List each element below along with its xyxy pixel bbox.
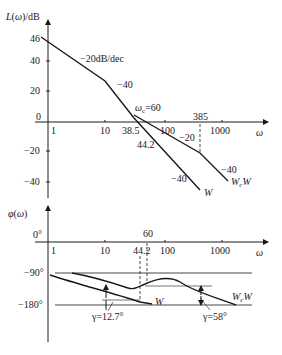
phase-y-label: φ(ω)	[8, 208, 27, 220]
y-tick-40: 40	[30, 55, 40, 66]
phase-x-tick-60: 60	[143, 228, 153, 239]
y-tick-46: 46	[30, 33, 40, 44]
y-tick-20: 20	[30, 85, 40, 96]
slope-label-uncorrected-end: −40	[171, 173, 187, 184]
x-tick-38-5: 38.5	[122, 125, 140, 136]
phase-x-tick-44-2: 44.2	[133, 245, 151, 256]
phase-x-label: ω	[256, 247, 263, 258]
magnitude-y-label: L(ω)/dB	[5, 11, 40, 23]
phase-x-tick-100: 100	[160, 245, 175, 256]
phase-plot: φ(ω) ω 0° −90° −180° 1 10 44.2 60 100 10…	[8, 206, 268, 342]
bode-plot-figure: L(ω)/dB ω 46 40 20 0 −20 −40 1 10 38.5 1…	[0, 0, 282, 355]
curve-label-w: W	[204, 187, 214, 198]
margin-label-w: γ=12.7°	[91, 311, 124, 322]
phase-tick-neg90: −90°	[24, 267, 44, 278]
phase-tick-neg180: −180°	[18, 299, 43, 310]
slope-label-corrected-end: −40	[221, 164, 237, 175]
curve-label-wcw: WcW	[231, 176, 252, 189]
phase-x-tick-1: 1	[51, 245, 56, 256]
x-tick-10: 10	[100, 125, 110, 136]
freq-44-2-annotation: 44.2	[137, 139, 155, 150]
y-tick-neg20: −20	[24, 145, 40, 156]
freq-385-annotation: 385	[193, 111, 208, 122]
x-tick-1: 1	[51, 125, 56, 136]
slope-label-corrected-mid: −20	[179, 132, 195, 143]
phase-x-tick-1000: 1000	[210, 245, 230, 256]
magnitude-x-label: ω	[256, 127, 263, 138]
margin-label-wcw: γ=58°	[202, 311, 227, 322]
phase-x-tick-10: 10	[100, 245, 110, 256]
slope-label-after-10: −40	[117, 79, 133, 90]
crossover-annotation: ωc=60	[135, 102, 161, 115]
x-tick-1000: 1000	[210, 125, 230, 136]
phase-tick-0: 0°	[33, 229, 42, 240]
phase-curve-label-wcw: WcW	[232, 291, 253, 304]
magnitude-plot: L(ω)/dB ω 46 40 20 0 −20 −40 1 10 38.5 1…	[5, 11, 268, 198]
y-tick-0: 0	[36, 111, 41, 122]
y-tick-neg40: −40	[24, 176, 40, 187]
slope-label-initial: −20dB/dec	[80, 53, 125, 64]
